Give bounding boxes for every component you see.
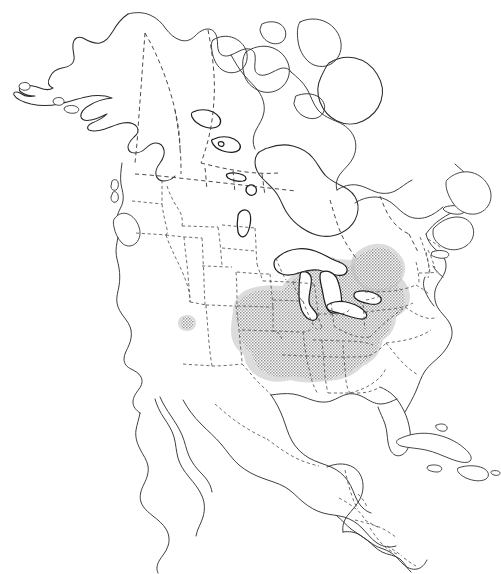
island-queen-charlotte	[111, 180, 118, 191]
border-va-nc	[386, 330, 431, 343]
border-wa-or	[132, 201, 162, 204]
border-sd-ne	[222, 248, 255, 251]
coastline-us-east	[405, 234, 452, 412]
border-wy-co	[202, 266, 232, 267]
island-victoria	[243, 46, 290, 92]
border-ne-ks	[237, 272, 270, 274]
border-nv-ut	[184, 237, 190, 302]
island-long-island	[431, 251, 449, 259]
border-vt-nh	[426, 252, 430, 273]
border-az-nm	[206, 305, 212, 366]
island-aleutian-2	[64, 106, 79, 114]
border-mexico-yucatan	[345, 470, 358, 509]
border-nc-sc	[386, 343, 418, 375]
border-costarica-panama	[404, 558, 416, 566]
border-or-id	[162, 204, 167, 235]
coastline-hudson-bay	[255, 145, 358, 236]
coastline-chesapeake	[424, 277, 435, 306]
coastline-mexico-west	[183, 400, 396, 547]
border-md-va	[405, 307, 437, 319]
border-az-mexico	[183, 364, 242, 366]
island-bahamas	[436, 424, 447, 431]
lake-winnipeg	[237, 210, 250, 237]
island-aleutian-3	[19, 83, 30, 91]
range-disjunct-west	[181, 317, 193, 329]
coastline-us-gulf	[271, 394, 397, 404]
coastline-alaska	[14, 14, 175, 181]
island-hispaniola	[457, 466, 488, 481]
coastline-central-america-pacific	[337, 516, 411, 572]
border-bc-alberta-south	[175, 110, 180, 147]
lake-athabasca	[226, 173, 246, 181]
border-co-nm	[206, 305, 236, 306]
border-ca-nv	[166, 235, 190, 302]
border-ma-ct	[419, 272, 437, 273]
border-mt-wy	[182, 226, 218, 227]
lake-great-bear	[191, 110, 220, 128]
island-ellesmere	[297, 19, 341, 66]
border-quebec-labrador	[380, 196, 409, 234]
border-ut-az	[190, 302, 206, 305]
island-baffin	[318, 57, 383, 124]
border-sd-mn	[255, 228, 257, 264]
border-ne-ia	[257, 264, 263, 281]
border-nj-ny	[416, 285, 430, 295]
island-nova-scotia	[433, 217, 474, 250]
north-america-range-map	[0, 0, 501, 574]
coastline-bc	[116, 163, 142, 413]
coastline-us-west	[136, 413, 169, 573]
border-ny-vt-nh	[416, 262, 419, 284]
coastline-yucatan	[327, 464, 363, 532]
island-jamaica	[427, 465, 442, 472]
border-alberta-sask	[205, 168, 207, 189]
border-bc-alberta	[180, 149, 181, 174]
border-el-salvador	[365, 520, 380, 528]
border-ut-co	[202, 238, 205, 308]
island-aleutian-1	[53, 98, 64, 106]
border-id-mt	[167, 186, 182, 226]
coastline-labrador	[355, 197, 443, 218]
border-al-ga-fl	[328, 387, 380, 393]
island-puerto-rico	[491, 471, 500, 476]
range-map-figure: North America Primary distribution range…	[0, 0, 501, 574]
coastline-baja-inner	[160, 397, 212, 492]
island-arctic-small-2	[294, 94, 325, 119]
island-queen-charlotte-2	[111, 192, 118, 203]
coastline-mexico-gulf	[271, 395, 371, 513]
border-quebec-maritimes	[409, 234, 418, 252]
coastline-central-america	[343, 532, 427, 570]
border-wy-sd	[218, 227, 222, 266]
border-mexico-state-1	[215, 404, 267, 439]
border-or-ca	[136, 233, 166, 235]
island-arctic-small-1	[260, 22, 286, 44]
lake-small-1	[218, 142, 224, 147]
lake-great-slave	[212, 137, 241, 153]
island-banks	[211, 36, 247, 72]
border-new-brunswick	[420, 237, 429, 278]
coastline-arctic-mainland	[231, 55, 264, 149]
